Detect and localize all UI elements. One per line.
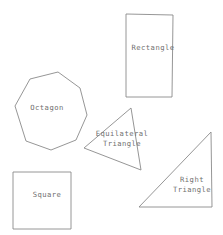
right-triangle-shape[interactable] <box>139 132 212 207</box>
square-shape[interactable] <box>13 172 71 229</box>
octagon-label: Octagon <box>30 103 63 113</box>
right-triangle-label: Right Triangle <box>173 175 211 195</box>
rectangle-label: Rectangle <box>132 43 175 53</box>
rectangle-shape[interactable] <box>126 14 173 97</box>
equilateral-triangle-label: Equilateral Triangle <box>96 129 149 149</box>
square-label: Square <box>33 190 62 200</box>
shapes-diagram-canvas: Rectangle Octagon Equilateral Triangle R… <box>0 0 223 235</box>
